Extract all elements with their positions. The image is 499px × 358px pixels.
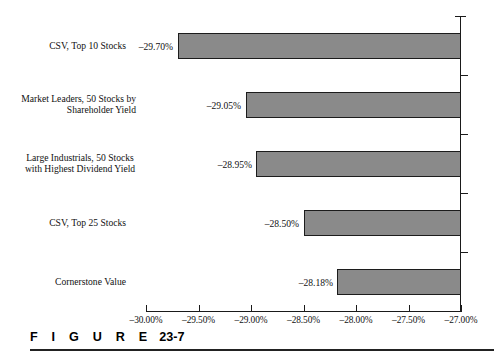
x-axis-tick xyxy=(409,305,410,312)
category-label-large-industrials: Large Industrials, 50 Stocks with Highes… xyxy=(14,152,146,175)
bar-value-label-large-industrials: –28.95% xyxy=(209,159,252,170)
bar-csv-top-10-stocks xyxy=(178,33,462,59)
bar-large-industrials-50-stocks xyxy=(256,151,461,177)
category-tick xyxy=(461,134,468,135)
x-axis-tick xyxy=(146,305,147,312)
category-label-csv-top-10-stocks: CSV, Top 10 Stocks xyxy=(20,40,126,51)
bar-value-label-csv-top-25-stocks: –28.50% xyxy=(256,218,299,229)
category-label-csv-top-25-stocks: CSV, Top 25 Stocks xyxy=(20,217,126,228)
x-axis-tick-label: –27.00% xyxy=(445,315,478,325)
category-tick xyxy=(461,193,468,194)
bar-value-label-csv-top-10-stocks: –29.70% xyxy=(130,41,173,52)
bar-value-label-cornerstone-value: –28.18% xyxy=(290,277,333,288)
chart-plot-area: –29.70% –29.05% –28.95% –28.50% –28.18% … xyxy=(0,0,499,318)
figure-caption: F I G U R E23-7 xyxy=(30,330,185,344)
figure-container: –29.70% –29.05% –28.95% –28.50% –28.18% … xyxy=(0,0,499,358)
bar-market-leaders-50-stocks xyxy=(246,92,461,118)
x-axis-tick-label: –28.50% xyxy=(287,315,320,325)
figure-caption-number: 23-7 xyxy=(159,330,184,344)
x-axis-tick xyxy=(251,305,252,312)
category-label-market-leaders: Market Leaders, 50 Stocks by Shareholder… xyxy=(6,93,136,116)
x-axis-tick-label: –29.00% xyxy=(235,315,268,325)
x-axis-tick-label: –30.00% xyxy=(130,315,163,325)
x-axis-tick xyxy=(199,305,200,312)
category-tick xyxy=(461,75,468,76)
x-axis-tick xyxy=(461,305,462,312)
category-tick xyxy=(461,252,468,253)
x-axis-tick-label: –28.00% xyxy=(340,315,373,325)
bar-value-label-market-leaders: –29.05% xyxy=(198,100,241,111)
category-label-cornerstone-value: Cornerstone Value xyxy=(20,276,126,287)
figure-caption-rule xyxy=(30,349,494,351)
bar-cornerstone-value xyxy=(337,269,461,295)
x-axis-tick-label: –27.50% xyxy=(392,315,425,325)
x-axis-tick xyxy=(304,305,305,312)
bar-csv-top-25-stocks xyxy=(304,210,462,236)
figure-caption-word: F I G U R E xyxy=(30,330,152,344)
x-axis-tick-label: –29.50% xyxy=(182,315,215,325)
x-axis-tick xyxy=(356,305,357,312)
